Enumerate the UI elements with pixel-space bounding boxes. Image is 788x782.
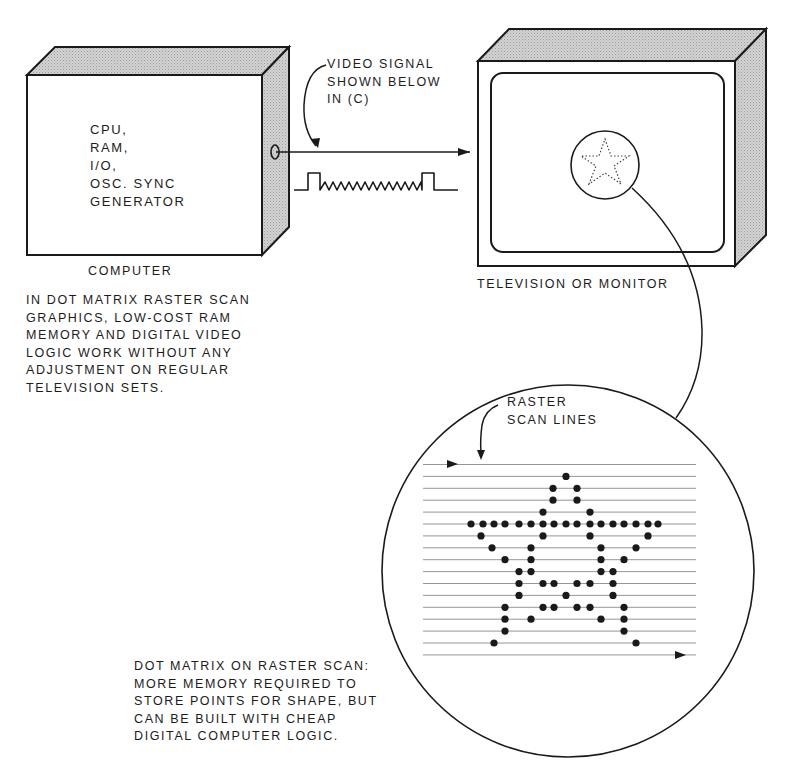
caption-line: ADJUSTMENT ON REGULAR bbox=[26, 362, 250, 380]
star-dot bbox=[539, 520, 546, 527]
star-dot bbox=[597, 544, 604, 551]
star-dot bbox=[644, 532, 651, 539]
callout-line: VIDEO SIGNAL bbox=[327, 56, 441, 74]
star-dot bbox=[632, 520, 639, 527]
box-line-generator: GENERATOR bbox=[90, 193, 186, 211]
caption-line: IN DOT MATRIX RASTER SCAN bbox=[26, 292, 250, 310]
box-line-ram: RAM, bbox=[90, 139, 186, 157]
video-signal-callout-arrow bbox=[304, 65, 326, 148]
star-dot bbox=[515, 520, 522, 527]
star-dot bbox=[501, 616, 508, 623]
raster-callout: RASTER SCAN LINES bbox=[507, 394, 597, 429]
star-dot bbox=[597, 568, 604, 575]
star-dot bbox=[620, 520, 627, 527]
star-dot bbox=[539, 580, 546, 587]
computer-top-face bbox=[27, 47, 289, 75]
star-dot bbox=[479, 520, 486, 527]
star-dot bbox=[527, 616, 534, 623]
computer-side-face bbox=[262, 47, 289, 255]
callout-line: IN (C) bbox=[327, 91, 441, 109]
star-dot bbox=[632, 544, 639, 551]
star-dot bbox=[597, 556, 604, 563]
caption-line: MORE MEMORY REQUIRED TO bbox=[134, 676, 378, 694]
computer-components-label: CPU, RAM, I/O, OSC. SYNC GENERATOR bbox=[90, 121, 186, 211]
star-dot bbox=[549, 485, 556, 492]
star-dot bbox=[609, 520, 616, 527]
monitor-label: TELEVISION OR MONITOR bbox=[477, 276, 669, 294]
star-dot bbox=[586, 580, 593, 587]
star-dot bbox=[586, 604, 593, 611]
star-dot bbox=[586, 520, 593, 527]
star-dot bbox=[586, 532, 593, 539]
star-dot bbox=[620, 616, 627, 623]
star-dot bbox=[609, 568, 616, 575]
computer-label: COMPUTER bbox=[88, 263, 172, 281]
star-dot bbox=[550, 520, 557, 527]
computer-caption: IN DOT MATRIX RASTER SCAN GRAPHICS, LOW-… bbox=[26, 292, 250, 397]
video-signal-callout: VIDEO SIGNAL SHOWN BELOW IN (C) bbox=[327, 56, 441, 109]
star-dot bbox=[620, 556, 627, 563]
callout-line: SCAN LINES bbox=[507, 412, 597, 430]
star-dot bbox=[527, 544, 534, 551]
star-dot bbox=[597, 520, 604, 527]
cable-arrowhead bbox=[458, 148, 470, 156]
monitor-side-face bbox=[735, 29, 766, 266]
caption-line: STORE POINTS FOR SHAPE, BUT bbox=[134, 693, 378, 711]
star-dot bbox=[620, 604, 627, 611]
star-dot bbox=[477, 532, 484, 539]
star-dot bbox=[501, 556, 508, 563]
star-dot bbox=[501, 628, 508, 635]
caption-line: LOGIC WORK WITHOUT ANY bbox=[26, 345, 250, 363]
star-dot bbox=[515, 592, 522, 599]
star-dot bbox=[562, 592, 569, 599]
star-dot bbox=[550, 604, 557, 611]
star-dot bbox=[549, 497, 556, 504]
star-dot bbox=[573, 604, 580, 611]
star-dot bbox=[527, 568, 534, 575]
raster-magnified-circle bbox=[382, 385, 754, 757]
star-dot bbox=[562, 473, 569, 480]
raster-caption: DOT MATRIX ON RASTER SCAN: MORE MEMORY R… bbox=[134, 658, 378, 746]
star-dot bbox=[573, 580, 580, 587]
star-dot bbox=[620, 628, 627, 635]
star-dot bbox=[527, 556, 534, 563]
star-dot bbox=[515, 580, 522, 587]
star-dot bbox=[539, 604, 546, 611]
screen-star-inset bbox=[571, 131, 639, 199]
monitor-top-face bbox=[478, 29, 766, 61]
callout-line: SHOWN BELOW bbox=[327, 74, 441, 92]
star-dot bbox=[573, 485, 580, 492]
star-dot bbox=[632, 639, 639, 646]
box-line-io: I/O, bbox=[90, 157, 186, 175]
star-dot bbox=[490, 639, 497, 646]
star-dot bbox=[573, 520, 580, 527]
callout-line: RASTER bbox=[507, 394, 597, 412]
box-line-osc-sync: OSC. SYNC bbox=[90, 175, 186, 193]
star-dot bbox=[597, 616, 604, 623]
star-dot bbox=[562, 520, 569, 527]
star-dot bbox=[539, 508, 546, 515]
caption-line: DOT MATRIX ON RASTER SCAN: bbox=[134, 658, 378, 676]
star-dot bbox=[501, 520, 508, 527]
star-dot bbox=[609, 592, 616, 599]
star-dot bbox=[539, 532, 546, 539]
star-dot bbox=[527, 520, 534, 527]
caption-line: GRAPHICS, LOW-COST RAM bbox=[26, 310, 250, 328]
video-waveform bbox=[294, 173, 458, 190]
star-dot bbox=[644, 520, 651, 527]
box-line-cpu: CPU, bbox=[90, 121, 186, 139]
star-dot bbox=[573, 497, 580, 504]
star-dot bbox=[654, 520, 661, 527]
star-dot bbox=[488, 544, 495, 551]
video-cable bbox=[276, 148, 470, 156]
star-dot bbox=[490, 520, 497, 527]
star-dot bbox=[550, 580, 557, 587]
caption-line: MEMORY AND DIGITAL VIDEO bbox=[26, 327, 250, 345]
star-dot bbox=[501, 604, 508, 611]
caption-line: CAN BE BUILT WITH CHEAP bbox=[134, 711, 378, 729]
star-dot bbox=[467, 520, 474, 527]
caption-line: TELEVISION SETS. bbox=[26, 380, 250, 398]
star-dot bbox=[586, 508, 593, 515]
star-dot bbox=[515, 568, 522, 575]
star-dot bbox=[609, 580, 616, 587]
